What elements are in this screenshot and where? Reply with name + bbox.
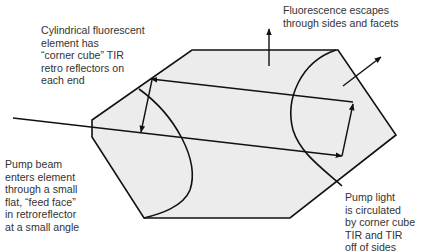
pump-light-circulated-label: Pump light is circulated by corner cube … [345,191,415,252]
fluorescence-escapes-label: Fluorescence escapes through sides and f… [283,4,398,29]
pump-beam-enters-label: Pump beam enters element through a small… [5,158,79,234]
cylindrical-element-label: Cylindrical fluorescent element has “cor… [41,24,145,87]
